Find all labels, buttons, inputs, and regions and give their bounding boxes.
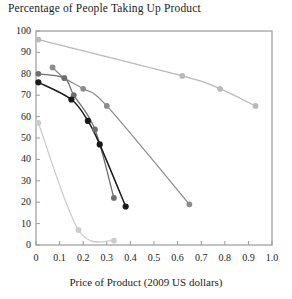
- data-point: [253, 103, 259, 109]
- x-tick-label: 0.4: [118, 252, 142, 263]
- data-point: [217, 86, 223, 92]
- data-point: [61, 75, 67, 81]
- data-point: [111, 238, 117, 244]
- x-axis-label: Price of Product (2009 US dollars): [0, 276, 292, 288]
- x-tick-label: 1.0: [260, 252, 284, 263]
- x-tick-label: 0.7: [189, 252, 213, 263]
- data-point: [68, 96, 74, 102]
- data-point: [35, 79, 41, 85]
- plot-frame: [36, 31, 272, 245]
- data-point: [92, 127, 98, 133]
- data-point: [104, 103, 110, 109]
- data-point: [85, 118, 91, 124]
- y-tick-label: 80: [5, 68, 31, 79]
- data-point: [76, 227, 82, 233]
- data-point: [35, 120, 41, 126]
- x-tick-label: 0.8: [213, 252, 237, 263]
- y-tick-label: 40: [5, 153, 31, 164]
- data-point: [80, 86, 86, 92]
- x-tick-label: 0.1: [48, 252, 72, 263]
- x-tick-label: 0.3: [95, 252, 119, 263]
- series-line-3: [38, 74, 114, 198]
- y-tick-label: 20: [5, 196, 31, 207]
- x-tick-label: 0: [24, 252, 48, 263]
- x-tick-label: 0.5: [142, 252, 166, 263]
- y-tick-label: 30: [5, 175, 31, 186]
- data-point: [111, 195, 117, 201]
- y-tick-label: 70: [5, 89, 31, 100]
- x-tick-label: 0.2: [71, 252, 95, 263]
- y-tick-label: 50: [5, 132, 31, 143]
- y-tick-label: 0: [5, 239, 31, 250]
- data-point: [179, 73, 185, 79]
- y-tick-label: 90: [5, 46, 31, 57]
- chart-container: Percentage of People Taking Up Product 0…: [0, 0, 292, 299]
- y-tick-label: 100: [5, 25, 31, 36]
- x-tick-label: 0.6: [166, 252, 190, 263]
- data-point: [50, 64, 56, 70]
- data-point: [97, 141, 103, 147]
- data-point: [35, 37, 41, 43]
- y-tick-label: 10: [5, 218, 31, 229]
- series-line-1: [38, 40, 255, 106]
- y-tick-label: 60: [5, 111, 31, 122]
- series-line-2: [53, 67, 190, 204]
- series-line-4: [38, 82, 125, 206]
- x-tick-label: 0.9: [236, 252, 260, 263]
- data-point: [123, 203, 129, 209]
- series-line-5: [38, 123, 114, 242]
- data-point: [187, 201, 193, 207]
- data-point: [35, 71, 41, 77]
